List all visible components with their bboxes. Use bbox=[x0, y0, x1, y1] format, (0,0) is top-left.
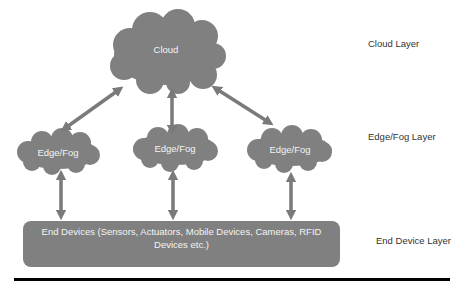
edge-fog-right-label: Edge/Fog bbox=[249, 144, 331, 155]
end-devices-label: End Devices (Sensors, Actuators, Mobile … bbox=[28, 225, 335, 251]
edge-fog-left-label: Edge/Fog bbox=[18, 147, 98, 158]
edge-fog-layer-label: Edge/Fog Layer bbox=[368, 131, 436, 142]
edge-fog-center-label: Edge/Fog bbox=[135, 143, 215, 154]
bottom-divider bbox=[14, 278, 450, 281]
end-device-layer-label: End Device Layer bbox=[376, 235, 451, 246]
cloud-label: Cloud bbox=[136, 44, 196, 55]
arrow-cloud-edge-left bbox=[64, 89, 120, 129]
arrow-cloud-edge-right bbox=[215, 88, 270, 123]
cloud-layer-label: Cloud Layer bbox=[368, 38, 419, 49]
